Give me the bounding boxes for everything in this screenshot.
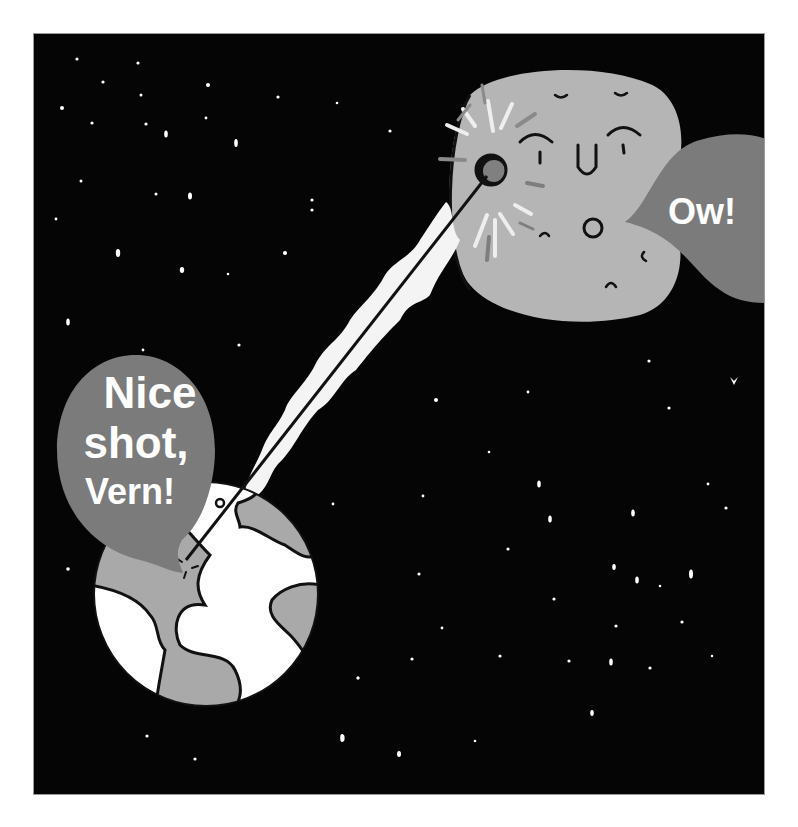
- bubble-line-1: Nice: [104, 368, 197, 417]
- moon: [440, 70, 681, 322]
- bubble-line-3: Vern!: [85, 471, 175, 512]
- space-illustration: Ow! Nice shot, Ve: [0, 0, 798, 827]
- bubble-line-2: shot,: [83, 418, 188, 467]
- ow-text: Ow!: [668, 191, 736, 232]
- beam-line: [186, 176, 487, 560]
